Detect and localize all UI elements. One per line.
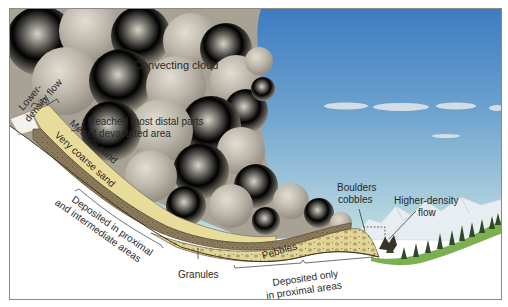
diagram-canvas: Convecting cloud Lower- density flow Rea… [10, 9, 502, 300]
label-reached-2: of devastated area [88, 128, 171, 139]
label-convecting-cloud: Convecting cloud [134, 59, 218, 71]
label-reached-1: Reached most distal parts [88, 116, 204, 127]
diagram-frame: Convecting cloud Lower- density flow Rea… [9, 8, 502, 300]
label-cobbles: cobbles [338, 194, 372, 205]
label-higher-density-1: Higher-density [394, 195, 458, 206]
label-higher-density-2: flow [418, 207, 437, 218]
label-boulders: Boulders [337, 182, 376, 193]
label-granules: Granules [178, 269, 219, 280]
